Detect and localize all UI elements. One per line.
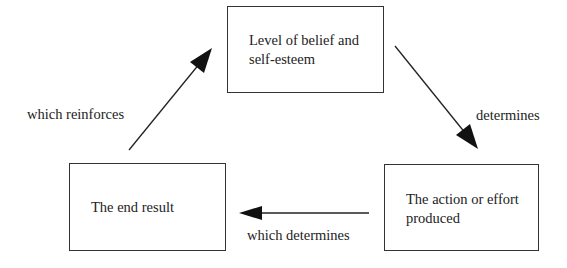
edge-label-which-reinforces: which reinforces — [27, 106, 124, 123]
arrow-belief-to-action — [395, 46, 478, 149]
node-belief: Level of belief and self-esteem — [227, 6, 384, 93]
node-action: The action or effort produced — [384, 164, 539, 251]
node-action-text: The action or effort produced — [406, 190, 519, 228]
edge-label-determines: determines — [476, 107, 540, 124]
node-result-text: The end result — [91, 198, 174, 217]
node-belief-text: Level of belief and self-esteem — [249, 31, 359, 69]
arrow-action-to-result — [239, 206, 369, 220]
node-result: The end result — [69, 163, 226, 251]
edge-label-which-determines: which determines — [247, 227, 350, 244]
arrow-result-to-belief — [129, 48, 212, 150]
